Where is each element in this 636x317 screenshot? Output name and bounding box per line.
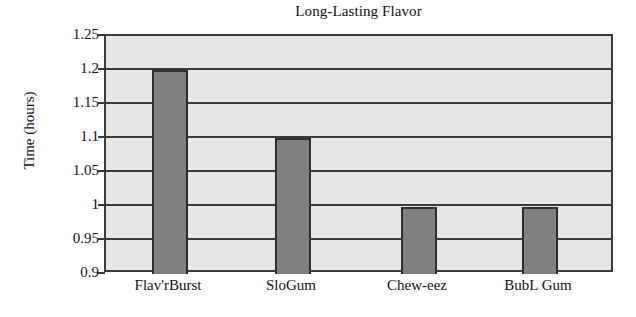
y-tick-label: 0.9	[40, 265, 99, 280]
bar	[522, 207, 558, 274]
x-tick-label: SloGum	[266, 277, 316, 294]
y-tick-label: 1	[40, 197, 99, 212]
chart-title: Long-Lasting Flavor	[104, 3, 613, 20]
plot-area	[104, 34, 613, 272]
y-tick-label: 1.2	[40, 61, 99, 76]
y-tick-label: 0.95	[40, 231, 99, 246]
bar-chart-figure: Long-Lasting Flavor Time (hours) 0.90.95…	[0, 0, 636, 317]
plot-inner	[106, 36, 611, 270]
x-tick-label: Chew-eez	[387, 277, 447, 294]
x-tick-label: Flav'rBurst	[135, 277, 202, 294]
y-tick-label: 1.15	[40, 95, 99, 110]
x-tick-label: BubL Gum	[504, 277, 571, 294]
bar	[152, 70, 188, 274]
y-tick-label: 1.25	[40, 27, 99, 42]
bar	[275, 138, 311, 274]
y-axis-title: Time (hours)	[21, 61, 38, 201]
bar	[401, 207, 437, 274]
y-tick-label: 1.1	[40, 129, 99, 144]
y-tick-label: 1.05	[40, 163, 99, 178]
y-axis-tick-labels: 0.90.9511.051.11.151.21.25	[40, 34, 99, 272]
y-tick-mark	[98, 272, 105, 274]
